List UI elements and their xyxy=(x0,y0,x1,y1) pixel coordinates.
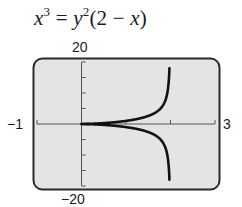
plot-screen xyxy=(0,0,242,207)
